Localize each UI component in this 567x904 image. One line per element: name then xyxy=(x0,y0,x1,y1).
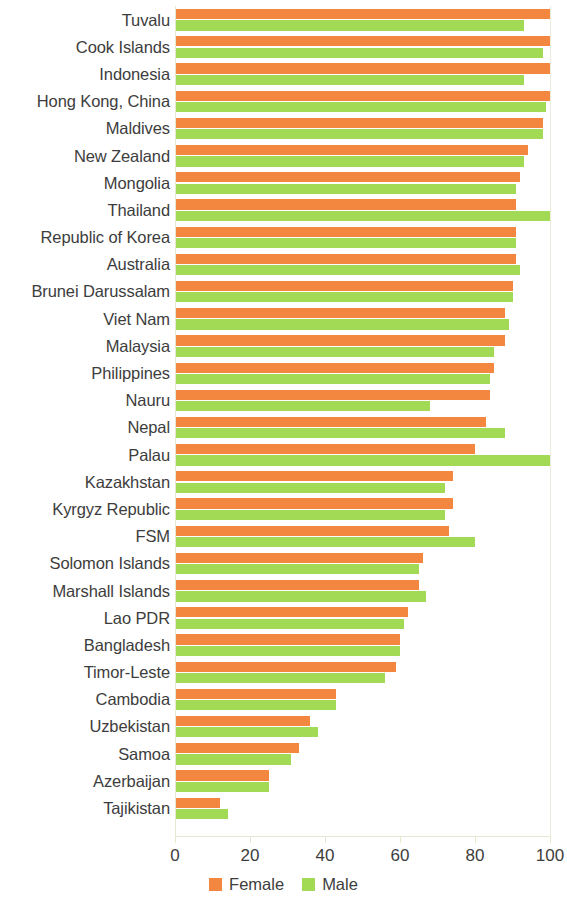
bar-row: Azerbaijan xyxy=(0,767,567,794)
bar-female xyxy=(175,770,269,780)
bar-row: Samoa xyxy=(0,740,567,767)
bar-group xyxy=(175,387,550,414)
bar-male xyxy=(175,347,494,357)
bar-group xyxy=(175,550,550,577)
category-label: Australia xyxy=(107,256,170,273)
bar-row: Tuvalu xyxy=(0,6,567,33)
bar-female xyxy=(175,335,505,345)
bar-chart: TuvaluCook IslandsIndonesiaHong Kong, Ch… xyxy=(0,0,567,904)
bar-group xyxy=(175,495,550,522)
bar-female xyxy=(175,689,336,699)
bar-male xyxy=(175,510,445,520)
bar-row: Tajikistan xyxy=(0,794,567,821)
chart-legend: Female Male xyxy=(0,876,567,893)
bar-male xyxy=(175,48,543,58)
bar-row: Republic of Korea xyxy=(0,224,567,251)
x-tick-mark xyxy=(175,836,176,843)
bar-group xyxy=(175,659,550,686)
bar-female xyxy=(175,118,543,128)
bar-group xyxy=(175,713,550,740)
bar-row: Palau xyxy=(0,441,567,468)
bar-male xyxy=(175,809,228,819)
bar-group xyxy=(175,414,550,441)
bar-male xyxy=(175,782,269,792)
bar-male xyxy=(175,265,520,275)
bar-female xyxy=(175,227,516,237)
bar-male xyxy=(175,564,419,574)
x-tick-label: 20 xyxy=(241,847,260,864)
x-tick-mark xyxy=(250,836,251,843)
bar-female xyxy=(175,634,400,644)
bar-male xyxy=(175,646,400,656)
bar-group xyxy=(175,604,550,631)
category-label: Nepal xyxy=(127,419,170,436)
bar-female xyxy=(175,526,449,536)
category-label: Mongolia xyxy=(104,174,170,191)
bar-female xyxy=(175,417,486,427)
bar-female xyxy=(175,63,550,73)
legend-item-female[interactable]: Female xyxy=(209,876,284,893)
bar-group xyxy=(175,224,550,251)
bar-group xyxy=(175,468,550,495)
category-label: New Zealand xyxy=(74,147,170,164)
x-tick-mark xyxy=(550,836,551,843)
bar-group xyxy=(175,794,550,821)
bar-row: Marshall Islands xyxy=(0,577,567,604)
bar-female xyxy=(175,471,453,481)
x-tick-mark xyxy=(475,836,476,843)
bar-group xyxy=(175,686,550,713)
bar-group xyxy=(175,142,550,169)
bar-row: Nauru xyxy=(0,387,567,414)
x-tick-mark xyxy=(325,836,326,843)
plot-right-border xyxy=(550,6,551,836)
category-label: Indonesia xyxy=(99,66,170,83)
bar-row: Malaysia xyxy=(0,332,567,359)
bar-rows: TuvaluCook IslandsIndonesiaHong Kong, Ch… xyxy=(0,6,567,822)
bar-male xyxy=(175,619,404,629)
bar-male xyxy=(175,428,505,438)
bar-row: Lao PDR xyxy=(0,604,567,631)
bar-row: Solomon Islands xyxy=(0,550,567,577)
bar-male xyxy=(175,401,430,411)
bar-male xyxy=(175,129,543,139)
bar-male xyxy=(175,292,513,302)
category-label: Kyrgyz Republic xyxy=(52,501,170,518)
category-label: Philippines xyxy=(91,365,170,382)
bar-female xyxy=(175,199,516,209)
plot-area: TuvaluCook IslandsIndonesiaHong Kong, Ch… xyxy=(0,0,567,836)
category-label: Bangladesh xyxy=(84,637,170,654)
bar-male xyxy=(175,20,524,30)
bar-row: Nepal xyxy=(0,414,567,441)
bar-group xyxy=(175,441,550,468)
bar-female xyxy=(175,390,490,400)
bar-row: Thailand xyxy=(0,196,567,223)
category-label: Kazakhstan xyxy=(85,474,170,491)
legend-item-male[interactable]: Male xyxy=(302,876,358,893)
bar-row: Viet Nam xyxy=(0,305,567,332)
bar-row: New Zealand xyxy=(0,142,567,169)
bar-group xyxy=(175,196,550,223)
bar-group xyxy=(175,115,550,142)
bar-group xyxy=(175,332,550,359)
bar-female xyxy=(175,743,299,753)
bar-female xyxy=(175,607,408,617)
bar-group xyxy=(175,33,550,60)
x-tick-label: 100 xyxy=(536,847,564,864)
bar-female xyxy=(175,798,220,808)
category-label: Thailand xyxy=(108,202,171,219)
bar-male xyxy=(175,156,524,166)
bar-female xyxy=(175,363,494,373)
category-label: Cook Islands xyxy=(76,39,170,56)
bar-female xyxy=(175,145,528,155)
legend-label-female: Female xyxy=(229,876,284,893)
bar-group xyxy=(175,169,550,196)
category-label: Malaysia xyxy=(106,338,170,355)
bar-male xyxy=(175,102,546,112)
bar-row: Indonesia xyxy=(0,60,567,87)
bar-female xyxy=(175,444,475,454)
bar-row: Brunei Darussalam xyxy=(0,278,567,305)
bar-female xyxy=(175,36,550,46)
legend-swatch-female-icon xyxy=(209,878,222,891)
bar-male xyxy=(175,537,475,547)
bar-female xyxy=(175,662,396,672)
